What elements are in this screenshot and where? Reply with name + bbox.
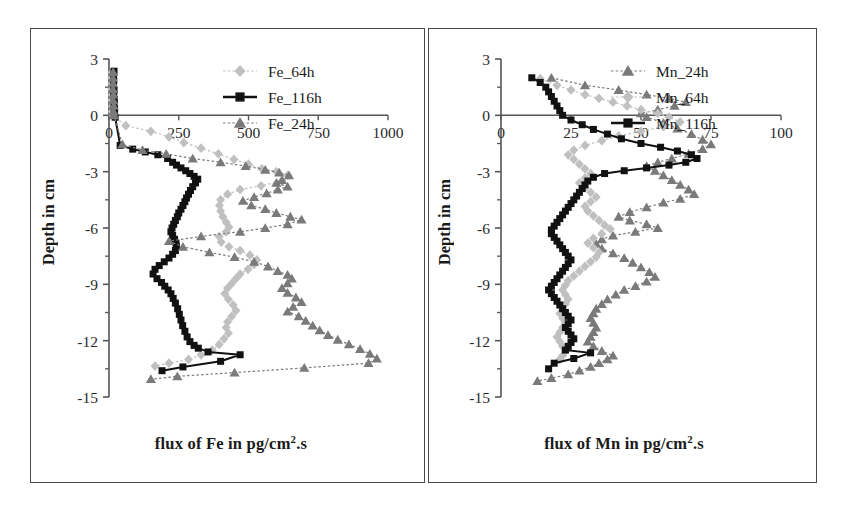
data-point-marker [121,121,130,131]
data-point-marker [618,135,625,142]
data-point-marker [675,180,685,189]
data-point-marker [344,340,354,349]
data-point-marker [595,94,604,104]
data-point-marker [614,212,624,221]
panel-mn: Depth in cm 30-3-6-9-12-150255075100Mn_2… [428,28,817,483]
data-point-marker [570,355,577,362]
data-point-marker [229,252,239,261]
data-point-marker [604,131,611,138]
data-point-marker [597,229,606,239]
data-point-marker [245,250,254,260]
data-point-marker [260,204,270,213]
y-axis-tick-label: -9 [477,276,490,293]
data-point-marker [658,171,668,180]
y-axis-tick-label: -12 [469,333,490,350]
data-point-marker [288,302,298,311]
data-point-marker [229,368,239,377]
data-point-marker [234,65,245,77]
x-axis-title-fe: flux of Fe in pg/cm2.s [41,434,421,454]
legend-label: Mn_116h [656,115,716,132]
data-point-marker [291,293,301,302]
data-point-marker [642,277,652,286]
data-point-marker [282,219,292,228]
x-axis-title-fe-text: flux of Fe in pg/cm [155,434,291,453]
data-point-marker [636,263,646,272]
x-axis-title-mn: flux of Mn in pg/cm2.s [434,434,814,454]
data-point-marker [559,112,566,119]
data-point-marker [205,348,212,355]
data-point-marker [694,155,701,162]
legend-label: Mn_64h [656,89,709,106]
data-point-marker [642,219,652,228]
data-point-marker [223,189,232,199]
data-point-marker [657,144,664,151]
data-point-marker [553,80,562,90]
data-point-marker [217,358,224,365]
x-axis-tick-label: 1000 [373,124,404,141]
data-point-marker [262,188,272,197]
x-axis-tick-label: 100 [769,124,793,141]
data-point-marker [611,290,621,299]
data-point-marker [621,167,628,174]
data-point-marker [545,365,552,372]
data-point-marker [602,294,612,303]
y-axis-tick-label: 3 [90,51,98,68]
x-axis-title-mn-text: flux of Mn in pg/cm [544,434,687,453]
data-point-marker [237,351,244,358]
data-point-marker [586,362,596,371]
data-point-marker [165,358,174,368]
data-point-marker [184,355,193,365]
data-point-marker [623,118,632,127]
legend: Mn_24hMn_64hMn_116h [611,63,716,132]
data-point-marker [273,266,283,275]
data-point-marker [642,90,652,99]
data-point-marker [597,346,607,355]
panel-fe: Depth in cm 30-3-6-9-12-1502505007501000… [30,28,425,483]
data-point-marker [236,246,245,256]
data-point-marker [263,262,273,271]
data-point-marker [234,117,246,128]
data-point-marker [644,267,654,276]
data-point-marker [682,159,689,166]
x-axis-tick-label: 25 [563,124,579,141]
data-point-marker [296,215,306,224]
data-point-marker [623,101,632,111]
y-axis-tick-label: 3 [482,51,490,68]
data-point-marker [365,349,375,358]
data-point-marker [658,198,668,207]
y-axis-tick-label: -12 [77,333,98,350]
data-point-marker [224,242,233,252]
data-point-marker [271,208,281,217]
data-point-marker [197,143,206,153]
data-point-marker [674,148,681,155]
data-point-marker [581,90,590,100]
data-point-marker [666,162,673,169]
y-axis-tick-label: -3 [477,164,490,181]
data-point-marker [698,144,708,153]
data-point-marker [653,223,663,232]
data-point-marker [235,92,244,101]
legend-label: Mn_24h [656,63,709,80]
data-point-marker [179,363,186,370]
data-point-marker [580,80,590,89]
x-axis-tick-label: 0 [497,124,505,141]
data-point-marker [643,164,650,171]
x-axis-tick-label: 0 [105,124,113,141]
data-point-marker [568,117,575,124]
y-axis-tick-label: -6 [477,220,490,237]
data-point-marker [363,358,373,367]
data-point-marker [619,253,629,262]
legend-label: Fe_64h [268,63,315,80]
data-point-marker [608,248,618,257]
series-line [112,72,288,366]
data-point-marker [625,216,635,225]
data-point-marker [581,141,590,151]
y-axis-tick-label: -15 [469,389,490,406]
data-point-marker [614,85,624,94]
data-point-marker [684,185,694,194]
data-point-marker [590,126,597,133]
data-point-marker [355,344,365,353]
data-point-marker [230,155,239,165]
plot-area-fe: 30-3-6-9-12-1502505007501000Fe_64hFe_116… [31,29,424,449]
y-axis-tick-label: -3 [85,164,98,181]
